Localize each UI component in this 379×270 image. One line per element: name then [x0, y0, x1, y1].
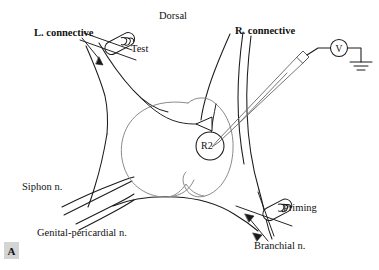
left-connective-label: L. connective: [34, 28, 94, 39]
right-connective-trunk-inner: [238, 32, 244, 164]
genital-pericardial-lower-edge: [79, 200, 134, 230]
ganglion-ventral-wall: [113, 197, 258, 231]
test-electrode-label: Test: [131, 44, 148, 55]
branchial-nerve-label: Branchial n.: [254, 241, 305, 252]
pointer-arrowhead-icon: [196, 117, 212, 131]
microelectrode-holder: [297, 51, 309, 63]
genital-pericardial-upper-edge: [76, 194, 134, 224]
siphon-nerve-lower-edge: [64, 181, 132, 215]
dorsal-label: Dorsal: [159, 11, 187, 22]
r2-cell-label: R2: [201, 141, 213, 151]
microelectrode-edge-upper: [218, 57, 297, 140]
siphon-nerve-label: Siphon n.: [22, 182, 62, 193]
microelectrode-filament: [238, 73, 287, 124]
recording-microelectrode-icon: [212, 51, 309, 147]
branchial-arrowhead-1: [245, 214, 254, 222]
left-connective-trunk-outer: [86, 46, 108, 134]
figure-panel-a: V: [0, 0, 379, 270]
microelectrode-edge-lower: [219, 63, 303, 142]
axon-tract-line: [133, 90, 197, 124]
voltmeter-icon: V: [331, 40, 348, 57]
wire-voltmeter-to-ground: [347, 48, 361, 62]
right-connective-label: R. connective: [235, 26, 295, 37]
wire-electrode-to-voltmeter: [307, 48, 331, 55]
ganglion-left-wall: [88, 134, 107, 207]
voltmeter-label: V: [336, 44, 343, 54]
genital-pericardial-nerve-label: Genital-pericardial n.: [37, 228, 127, 239]
priming-electrode-icon: [236, 192, 294, 241]
left-connective-arrowhead: [96, 57, 103, 65]
panel-label-a: A: [4, 242, 19, 259]
priming-electrode-label: Priming: [283, 203, 317, 214]
